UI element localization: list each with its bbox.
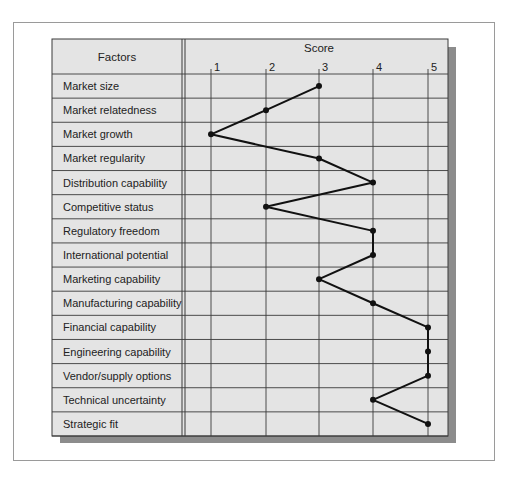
score-point [425, 421, 431, 427]
score-point [263, 204, 269, 210]
factor-label: Strategic fit [63, 418, 118, 430]
score-point [316, 276, 322, 282]
score-point [208, 131, 214, 137]
factor-label: Marketing capability [63, 273, 161, 285]
factor-label: Market relatedness [63, 104, 157, 116]
factor-label: Market size [63, 80, 119, 92]
score-point [316, 155, 322, 161]
factor-label: Engineering capability [63, 346, 171, 358]
factor-label: Technical uncertainty [63, 394, 166, 406]
score-column-header: Score [304, 42, 334, 54]
factor-label: International potential [63, 249, 168, 261]
factors-column-header: Factors [98, 51, 137, 63]
factor-label: Distribution capability [63, 177, 167, 189]
score-point [370, 397, 376, 403]
score-tick-2: 2 [269, 61, 275, 73]
score-point [316, 83, 322, 89]
factor-label: Manufacturing capability [63, 297, 182, 309]
score-tick-4: 4 [376, 61, 382, 73]
factor-label: Regulatory freedom [63, 225, 160, 237]
score-point [370, 228, 376, 234]
score-point [370, 300, 376, 306]
factor-label: Competitive status [63, 201, 154, 213]
score-point [425, 349, 431, 355]
score-point [370, 180, 376, 186]
factor-label: Financial capability [63, 321, 156, 333]
factor-label: Market growth [63, 128, 133, 140]
score-tick-3: 3 [322, 61, 328, 73]
factor-score-profile-chart: Factors Score 12345 Market sizeMarket re… [0, 0, 520, 478]
score-tick-1: 1 [214, 61, 220, 73]
score-point [425, 373, 431, 379]
score-point [425, 324, 431, 330]
factor-label: Vendor/supply options [63, 370, 172, 382]
factor-label: Market regularity [63, 152, 145, 164]
score-point [370, 252, 376, 258]
score-tick-5: 5 [431, 61, 437, 73]
score-point [263, 107, 269, 113]
